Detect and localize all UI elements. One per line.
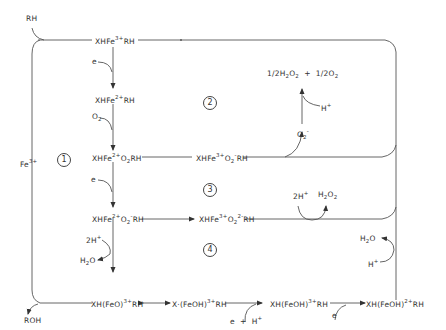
two-protons-1-label: 2H+ [86, 235, 102, 245]
electron-2-label: e [91, 176, 96, 184]
electron-3-label: e [332, 312, 337, 320]
electron-proton-label: e + H+ [230, 316, 262, 326]
substrate-rh-label: RH [26, 15, 37, 23]
water-1-label: H2O [80, 257, 96, 267]
pathway-1-marker: 1 [57, 153, 71, 167]
pathway-4-marker: 4 [203, 243, 217, 257]
iron-label: Fe3+ [20, 159, 37, 169]
species-xhfe3-o2-2minus-rh: XHFe3+O22-RH [199, 214, 255, 226]
species-xhfe3-rh: XHFe3+RH [95, 36, 135, 46]
p450-cycle-diagram: RH ROH Fe3+ XHFe3+RH XHFe2+RH XHFe2+O2RH… [0, 0, 446, 330]
left-loop-line [32, 40, 40, 303]
species-xhfe3-o2minus-rh: XHFe3+O2-RH [196, 153, 248, 165]
species-xrad-feoh-3-rh: X·(FeOH)3+RH [172, 299, 227, 309]
product-roh-label: ROH [24, 317, 41, 325]
two-protons-3-label: 2H+ [293, 191, 309, 201]
species-xh-feoh-3-rh: XH(FeOH)3+RH [270, 299, 328, 309]
proton-4-label: H+ [368, 259, 379, 269]
oxygen-in-label: O2 [92, 113, 102, 123]
species-xhfe2-o2minus-rh: XHFe2+O2-RH [92, 214, 144, 226]
species-xhfe2-rh: XHFe2+RH [95, 95, 135, 105]
substrate-entry-curve [32, 28, 44, 40]
species-xh-feoh-2-rh: XH(FeOH)2+RH [366, 299, 424, 309]
electron-1-label: e [92, 58, 97, 66]
hydrogen-peroxide-label: H2O2 [318, 191, 337, 201]
pathway-2-marker: 2 [203, 96, 217, 110]
proton-2-label: H+ [321, 103, 332, 113]
pathway-3-marker: 3 [203, 183, 217, 197]
disproportionation-products-label: 1/2H2O2 + 1/2O2 [267, 70, 338, 80]
water-2-label: H2O [360, 235, 376, 245]
species-xhfe2-o2-rh: XHFe2+O2RH [92, 153, 142, 165]
superoxide-label: O2- [297, 129, 309, 141]
species-xh-feo-3-rh: XH(FeO)3+RH [91, 299, 143, 309]
